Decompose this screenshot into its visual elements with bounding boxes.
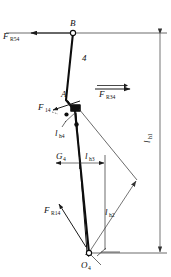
joint-O4 (86, 250, 91, 255)
label-force-G4-subscript: 4 (63, 156, 66, 162)
free-body-diagram: B A O 4 4 F R54 F R34 F 14 F R14 G 4 l h… (0, 0, 171, 277)
label-point-B: B (70, 18, 76, 28)
label-force-FR14: F (43, 205, 50, 215)
label-dimension-lh3: l (85, 151, 88, 161)
label-dimension-lh1: l (142, 140, 152, 143)
bearing-block (71, 105, 81, 112)
joint-B (70, 30, 75, 35)
label-dimension-lh2: l (105, 207, 108, 217)
label-force-FR34: F (98, 89, 105, 99)
label-force-F14: F (37, 102, 44, 112)
application-point-dot-upper (64, 112, 68, 116)
label-dimension-lh1-subscript: h1 (147, 133, 153, 139)
overbar-arrowhead-FR34 (124, 83, 128, 87)
label-force-FR54-subscript: R54 (10, 36, 20, 42)
leader-line-F14 (52, 112, 58, 114)
force-arrow-FR14 (59, 204, 86, 247)
dimension-leader-lh4 (62, 121, 66, 127)
label-force-G4: G (56, 151, 63, 161)
label-dimension-lh3-subscript: h3 (89, 156, 95, 162)
label-member-4: 4 (82, 53, 87, 63)
label-point-O4-subscript: 4 (88, 265, 91, 271)
label-dimension-lh1-group: l h1 (142, 133, 153, 143)
label-dimension-lh4: l (55, 128, 58, 138)
label-force-FR34-subscript: R34 (106, 94, 116, 100)
moment-arm-construction-line (79, 109, 137, 180)
label-force-FR54: F (2, 31, 9, 41)
application-point-dot-lower (74, 122, 78, 126)
diagram-canvas: B A O 4 4 F R54 F R34 F 14 F R14 G 4 l h… (0, 0, 171, 277)
label-force-F14-subscript: 14 (45, 107, 51, 113)
label-dimension-lh4-subscript: h4 (59, 133, 65, 139)
label-dimension-lh2-subscript: h2 (109, 212, 115, 218)
label-point-A: A (60, 89, 67, 99)
label-point-O4: O (81, 260, 88, 270)
label-force-FR14-subscript: R14 (51, 210, 61, 216)
